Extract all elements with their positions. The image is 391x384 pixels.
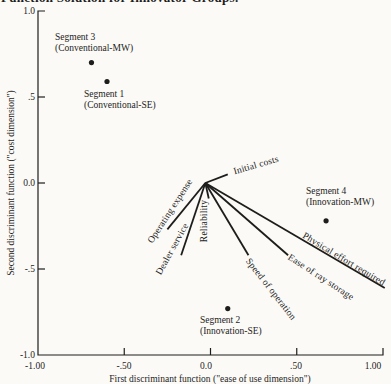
y-tick-1.0: 1.0 [6, 6, 35, 16]
vector-label-reliability: Reliability [199, 200, 209, 242]
segment-1-group: (Conventional-SE) [84, 100, 156, 111]
discriminant-map-figure: Function Solution for Innovator Groups. … [0, 0, 391, 384]
x-axis-title: First discriminant function ("ease of us… [109, 374, 310, 384]
segment-4-group: (Innovation-MW) [306, 197, 374, 208]
segment-3-name: Segment 3 [55, 32, 133, 43]
segment-1-name: Segment 1 [84, 89, 156, 100]
point-label-segment-4: Segment 4 (Innovation-MW) [306, 186, 374, 208]
segment-2-name: Segment 2 [200, 315, 262, 326]
x-tick-0.50: .50 [279, 361, 313, 371]
point-label-segment-1: Segment 1 (Conventional-SE) [84, 89, 156, 111]
y-axis-title: Second discriminant function ("cost dime… [6, 90, 16, 276]
x-tick-0.0: 0.0 [189, 361, 223, 371]
point-label-segment-2: Segment 2 (Innovation-SE) [200, 315, 262, 337]
segment-4-name: Segment 4 [306, 186, 374, 197]
segment-3-group: (Conventional-MW) [55, 43, 133, 54]
y-tick-neg-1.0: -1.0 [6, 350, 35, 360]
x-tick-neg-0.50: -.50 [107, 361, 141, 371]
x-tick-neg-1.00: -1.00 [18, 361, 52, 371]
segment-2-group: (Innovation-SE) [200, 326, 262, 337]
point-label-segment-3: Segment 3 (Conventional-MW) [55, 32, 133, 54]
x-tick-1.00: 1.00 [356, 361, 390, 371]
